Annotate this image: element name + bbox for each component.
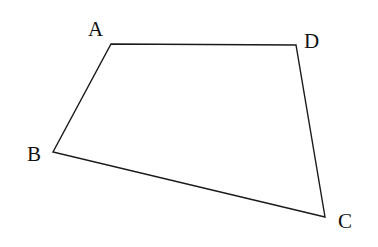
quadrilateral-ABCD [53,44,325,217]
quadrilateral-diagram: A D B C [0,0,378,247]
vertex-label-a: A [88,17,104,41]
vertex-label-c: C [338,209,352,233]
vertex-label-b: B [27,142,41,166]
vertex-label-d: D [304,29,319,53]
